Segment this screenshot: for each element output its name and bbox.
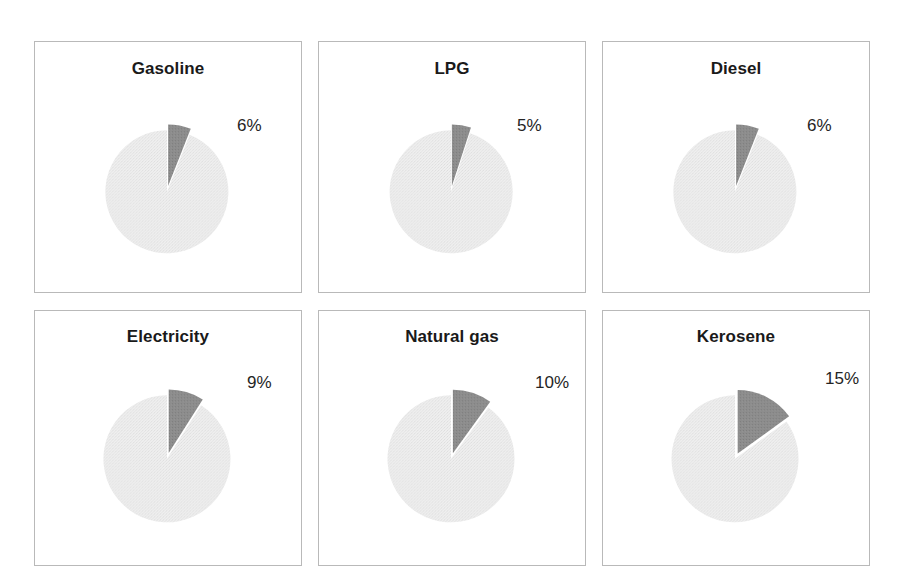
- pie-slices-gasoline: [105, 124, 228, 253]
- chart-panel-kerosene: Kerosene 15%: [602, 310, 870, 566]
- chart-panel-gasoline: Gasoline: [34, 41, 302, 293]
- pie-chart-grid-figure: Gasoline: [0, 0, 912, 582]
- pie-chart-natural-gas: 10%: [319, 311, 585, 565]
- pie-slice-remainder: [673, 130, 796, 253]
- chart-panel-electricity: Electricity 9%: [34, 310, 302, 566]
- pie-chart-diesel: 6%: [603, 42, 869, 292]
- pie-svg-electricity: [35, 311, 301, 565]
- pie-slice-remainder: [387, 395, 514, 522]
- pie-slice-remainder: [103, 395, 230, 522]
- pie-slice-remainder: [105, 130, 228, 253]
- chart-panel-diesel: Diesel 6%: [602, 41, 870, 293]
- pie-svg-kerosene: [603, 311, 869, 565]
- pie-percent-label-diesel: 6%: [807, 116, 832, 136]
- pie-slices-lpg: [390, 124, 513, 253]
- pie-percent-label-natural-gas: 10%: [535, 373, 569, 393]
- pie-slices-electricity: [103, 390, 230, 523]
- pie-chart-kerosene: 15%: [603, 311, 869, 565]
- chart-panel-lpg: LPG 5%: [318, 41, 586, 293]
- pie-chart-gasoline: 6%: [35, 42, 301, 292]
- pie-svg-lpg: [319, 42, 585, 292]
- pie-slices-kerosene: [671, 390, 798, 522]
- pie-svg-diesel: [603, 42, 869, 292]
- chart-panel-natural-gas: Natural gas 10%: [318, 310, 586, 566]
- pie-slices-diesel: [673, 124, 796, 253]
- pie-svg-gasoline: [35, 42, 301, 292]
- pie-slice-remainder: [390, 130, 513, 253]
- pie-svg-natural-gas: [319, 311, 585, 565]
- pie-percent-label-lpg: 5%: [517, 116, 542, 136]
- pie-percent-label-gasoline: 6%: [237, 116, 262, 136]
- pie-slices-natural-gas: [387, 390, 514, 523]
- pie-percent-label-electricity: 9%: [247, 373, 272, 393]
- pie-chart-electricity: 9%: [35, 311, 301, 565]
- pie-chart-lpg: 5%: [319, 42, 585, 292]
- pie-percent-label-kerosene: 15%: [825, 369, 859, 389]
